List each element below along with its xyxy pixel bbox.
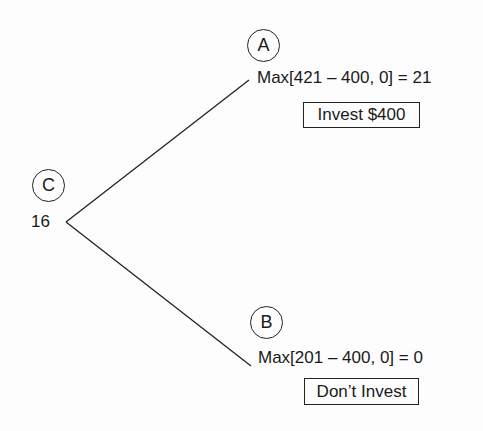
edge-c-to-b [66,222,251,366]
node-a-payoff: Max[421 – 400, 0] = 21 [257,68,431,88]
edge-c-to-a [66,80,249,222]
node-a-label: A [257,35,269,56]
node-a-circle: A [247,29,280,62]
node-b-payoff: Max[201 – 400, 0] = 0 [258,348,423,368]
decision-invest-box: Invest $400 [303,102,420,128]
node-c-value: 16 [31,212,50,232]
node-c-label: C [42,175,55,196]
node-b-circle: B [250,306,283,339]
node-b-label: B [260,312,272,333]
decision-dont-invest-box: Don’t Invest [304,378,419,405]
node-c-circle: C [32,169,65,202]
